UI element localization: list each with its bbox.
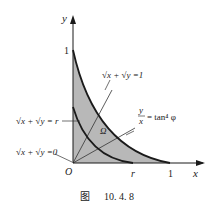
leader-ray-label	[126, 131, 134, 135]
y-axis-label: y	[61, 12, 67, 24]
x-axis-label: x	[192, 167, 198, 179]
inner-curve-label: √x + √y = r	[16, 116, 59, 126]
ray-label-rhs: = tan⁴ φ	[147, 112, 176, 122]
region-omega-label: Ω	[100, 126, 107, 136]
shaded-region-omega	[73, 50, 170, 163]
figure-caption-number: 10. 4. 8	[104, 191, 134, 202]
y-axis-arrow-icon	[70, 15, 76, 24]
figure-caption-prefix: 图	[80, 191, 90, 202]
origin-label: O	[65, 166, 72, 177]
x-tick-r: r	[131, 168, 135, 179]
diagram-canvas: y x 1 O r 1 √x + √y =1 √x + √y = r √x + …	[0, 0, 221, 209]
leader-outer-label	[105, 80, 110, 90]
ray-label-numerator: y	[138, 105, 143, 115]
leader-zero-label	[55, 154, 72, 162]
outer-curve-label: √x + √y =1	[102, 70, 143, 80]
y-tick-one: 1	[64, 45, 69, 56]
zero-curve-label: √x + √y =0	[16, 147, 58, 157]
ray-label-denominator: x	[138, 116, 143, 126]
x-axis-arrow-icon	[196, 160, 205, 166]
x-tick-one: 1	[168, 168, 173, 179]
